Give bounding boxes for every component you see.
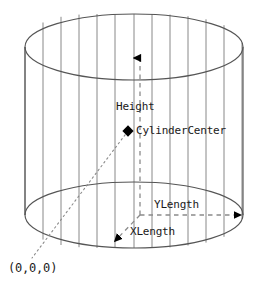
cylinder-wireframe-graphic xyxy=(0,0,263,296)
height-label: Height xyxy=(116,100,155,113)
cylinder-diagram: Height CylinderCenter YLength XLength (0… xyxy=(0,0,263,296)
origin-label: (0,0,0) xyxy=(8,262,57,275)
cylinder-center-label: CylinderCenter xyxy=(136,124,226,137)
cylinder-top-ellipse xyxy=(25,14,243,80)
ylength-label: YLength xyxy=(154,198,199,211)
xlength-label: XLength xyxy=(130,225,175,238)
cylinder-center-marker xyxy=(122,125,133,137)
origin-leader-line xyxy=(32,131,128,258)
